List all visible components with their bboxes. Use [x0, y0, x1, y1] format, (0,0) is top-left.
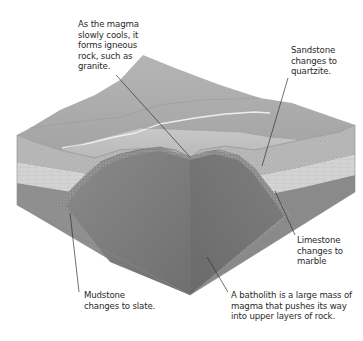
label-mudstone: Mudstone changes to slate.	[84, 290, 174, 311]
label-igneous-rock: As the magma slowly cools, it forms igne…	[78, 19, 158, 72]
label-limestone: Limestone changes to marble	[297, 235, 363, 267]
batholith	[58, 147, 290, 295]
label-batholith: A batholith is a large mass of magma tha…	[231, 290, 363, 322]
label-sandstone: Sandstone changes to quartzite.	[291, 45, 361, 77]
